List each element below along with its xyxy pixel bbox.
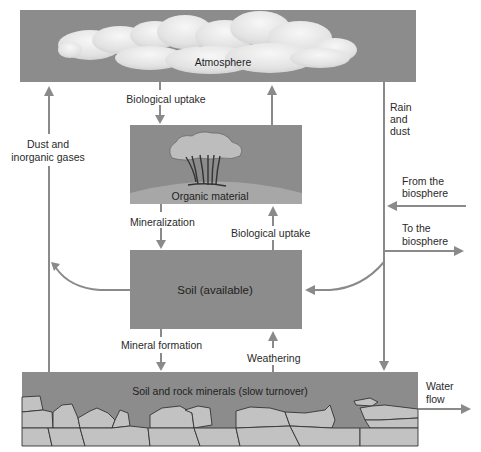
organic-material-label: Organic material — [171, 190, 248, 202]
mineralization-flow: Mineralization — [130, 204, 195, 249]
bio-uptake-top-label: Biological uptake — [126, 93, 206, 105]
atmosphere-label: Atmosphere — [195, 56, 252, 68]
from-biosphere-label-2: biosphere — [402, 187, 448, 199]
rain-dust-label-3: dust — [390, 125, 410, 137]
bio-uptake-mid-flow: Biological uptake — [231, 206, 311, 250]
soil-to-dust-flow — [51, 262, 130, 290]
bio-uptake-top-flow: Biological uptake — [126, 82, 206, 124]
weathering-label: Weathering — [247, 352, 301, 364]
rain-dust-label-2: and — [390, 113, 408, 125]
organic-material-box: Organic material — [130, 125, 302, 204]
dust-gases-label-1: Dust and — [27, 138, 69, 150]
mineral-formation-flow: Mineral formation — [121, 329, 202, 371]
to-biosphere-flow: To the biosphere — [384, 222, 464, 256]
rain-to-soil-flow — [305, 262, 384, 295]
rain-dust-label-1: Rain — [390, 101, 412, 113]
to-biosphere-label-1: To the — [402, 222, 431, 234]
mineralization-label: Mineralization — [130, 216, 195, 228]
water-flow-label-2: flow — [426, 393, 445, 405]
soil-available-label: Soil (available) — [177, 284, 253, 296]
bio-uptake-mid-label: Biological uptake — [231, 227, 311, 239]
atmosphere-box: Atmosphere — [20, 10, 416, 82]
rock-minerals-label: Soil and rock minerals (slow turnover) — [132, 385, 308, 397]
rock-minerals-box: Soil and rock minerals (slow turnover) — [22, 372, 418, 446]
dust-gases-label-2: inorganic gases — [11, 151, 85, 163]
dust-gases-flow: Dust and inorganic gases — [11, 86, 85, 372]
water-flow-label-1: Water — [426, 380, 454, 392]
water-flow: Water flow — [418, 380, 471, 414]
organic-to-atmosphere-flow — [267, 85, 277, 125]
from-biosphere-flow: From the biosphere — [387, 175, 466, 211]
mineral-formation-label: Mineral formation — [121, 339, 202, 351]
from-biosphere-label-1: From the — [402, 175, 444, 187]
to-biosphere-label-2: biosphere — [402, 235, 448, 247]
weathering-flow: Weathering — [247, 331, 301, 372]
nutrient-cycle-diagram: Atmosphere Organic material Soil (availa… — [0, 0, 481, 452]
soil-available-box: Soil (available) — [130, 250, 302, 329]
